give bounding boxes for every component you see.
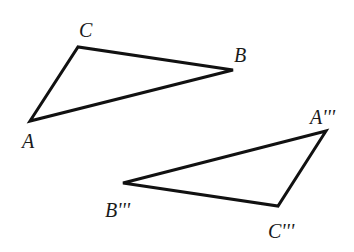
diagram-canvas: A C B A''' B''' C''' <box>0 0 354 252</box>
vertex-label-a-triple-prime: A''' <box>308 106 336 128</box>
vertex-label-b: B <box>234 44 246 66</box>
vertex-label-c: C <box>79 19 93 41</box>
vertex-label-c-triple-prime: C''' <box>268 220 295 242</box>
triangle-a3b3c3 <box>123 131 326 206</box>
vertex-label-a: A <box>20 130 35 152</box>
triangle-abc <box>30 47 233 121</box>
vertex-label-b-triple-prime: B''' <box>105 199 131 221</box>
